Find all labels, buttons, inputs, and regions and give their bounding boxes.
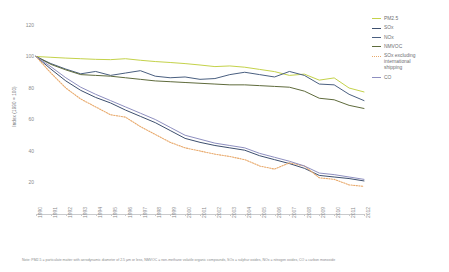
x-axis-tick-label: 1996 [128, 207, 133, 218]
legend-label-co: CO [384, 75, 448, 81]
x-axis-tick-label: 2006 [277, 207, 282, 218]
x-axis-tick-label: 2010 [336, 207, 341, 218]
x-axis-tick-label: 2002 [217, 207, 222, 218]
legend-item-sox[interactable]: SOx [372, 25, 448, 31]
x-axis-tick-label: 1993 [83, 207, 88, 218]
legend-swatch-sox-excluding-international-shipping [372, 56, 381, 57]
x-axis-tick-label: 2003 [232, 207, 237, 218]
legend-label-nox: NOx [384, 35, 448, 41]
series-line-pm2.5 [36, 57, 364, 92]
legend-item-nmvoc[interactable]: NMVOC [372, 44, 448, 50]
legend-swatch-pm25 [372, 18, 381, 19]
x-axis-tick-label: 2004 [247, 207, 252, 218]
legend: PM2.5 SOx NOx NMVOC SOx excluding intern… [372, 16, 448, 84]
series-line-sox-excluding-international-shipping [36, 57, 364, 187]
legend-item-sox-excluding-international-shipping[interactable]: SOx excluding international shipping [372, 53, 448, 71]
x-axis-tick-label: 2008 [307, 207, 312, 218]
legend-label-sox-excluding-international-shipping: SOx excluding international shipping [384, 53, 448, 71]
legend-item-nox[interactable]: NOx [372, 35, 448, 41]
x-axis-tick-label: 1991 [53, 207, 58, 218]
emissions-index-line-chart: Index (1990 = 100) 120 100 80 60 40 20 1… [0, 0, 449, 272]
legend-swatch-sox [372, 28, 381, 29]
x-axis-tick-label: 2005 [262, 207, 267, 218]
legend-item-pm25[interactable]: PM2.5 [372, 16, 448, 22]
x-axis-tick-label: 2007 [292, 207, 297, 218]
legend-label-sox: SOx [384, 25, 448, 31]
x-axis-tick-label: 2001 [202, 207, 207, 218]
chart-footnote: Note: PM2.5 = particulate matter with ae… [22, 258, 442, 263]
x-axis-tick-label: 2000 [187, 207, 192, 218]
legend-swatch-nox [372, 37, 381, 38]
legend-swatch-co [372, 77, 381, 78]
x-axis-tick-label: 2011 [351, 207, 356, 218]
legend-label-nmvoc: NMVOC [384, 44, 448, 50]
x-axis-tick-label: 1994 [98, 207, 103, 218]
legend-swatch-nmvoc [372, 46, 381, 47]
x-axis-tick-label: 1999 [172, 207, 177, 218]
x-axis-tick-label: 2012 [366, 207, 371, 218]
series-line-nmvoc [36, 57, 364, 109]
legend-label-pm25: PM2.5 [384, 16, 448, 22]
x-axis-tick-label: 2009 [321, 207, 326, 218]
x-axis-tick-label: 1990 [38, 207, 43, 218]
x-axis-tick-label: 1997 [143, 207, 148, 218]
legend-item-co[interactable]: CO [372, 75, 448, 81]
x-axis-tick-label: 1992 [68, 207, 73, 218]
x-axis-tick-label: 1995 [113, 207, 118, 218]
x-axis-tick-label: 1998 [157, 207, 162, 218]
